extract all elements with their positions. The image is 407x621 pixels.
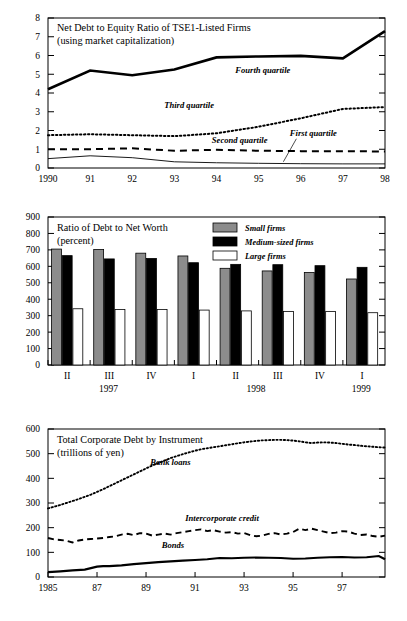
chart2-y-tick-label: 600	[26, 262, 41, 272]
chart1-x-tick-label: 96	[296, 174, 306, 184]
chart2-x-tick-label: I	[360, 371, 363, 381]
chart2-bar	[189, 263, 199, 365]
chart2-svg: 0100200300400500600700800900 IIIIIIVIIII…	[0, 205, 407, 417]
chart3-x-tick-label: 89	[141, 583, 151, 593]
chart2-bar	[284, 311, 294, 365]
chart3-svg: 0100200300400500600 1985878991939597 Tot…	[0, 417, 407, 621]
chart2-legend-label: Large firms	[244, 252, 286, 261]
chart2-x-tick-label: I	[192, 371, 195, 381]
chart2-y-tick-label: 500	[26, 278, 41, 288]
chart1-x-tick-label: 91	[85, 174, 95, 184]
chart2-x-axis-labels: IIIIIIVIIIIIIIVI	[64, 371, 364, 381]
chart2-x-tick-label: II	[64, 371, 70, 381]
chart3-y-tick-label: 100	[26, 548, 41, 558]
chart1-y-tick-label: 3	[35, 107, 40, 117]
chart2-bar	[136, 253, 146, 365]
chart2-bar	[262, 271, 272, 365]
chart1-subtitle: (using market capitalization)	[57, 35, 174, 47]
chart2-legend-label: Medium-sized firms	[244, 238, 314, 247]
chart3-series-line	[48, 556, 385, 572]
chart2-bar	[315, 266, 325, 365]
chart3-y-tick-label: 600	[26, 424, 41, 434]
chart1-y-tick-label: 0	[35, 163, 40, 173]
chart2-bar	[73, 309, 83, 365]
chart1-y-tick-label: 2	[35, 126, 40, 136]
chart3-x-tick-label: 87	[92, 583, 102, 593]
chart2-y-tick-label: 100	[26, 344, 41, 354]
chart3-x-tick-label: 97	[337, 583, 347, 593]
chart1-x-tick-label: 95	[254, 174, 264, 184]
chart3-y-tick-label: 300	[26, 498, 41, 508]
chart2-bar	[368, 313, 378, 365]
chart2-bar	[357, 267, 367, 365]
chart2-y-tick-label: 700	[26, 245, 41, 255]
chart2-bar	[220, 268, 230, 365]
chart-net-debt-to-equity: 012345678 19909192939495969798 Net Debt …	[0, 0, 407, 205]
chart2-year-labels: 199719981999	[99, 384, 371, 394]
chart1-x-tick-label: 97	[338, 174, 348, 184]
chart1-y-tick-label: 8	[35, 13, 40, 23]
chart2-legend: Small firmsMedium-sized firmsLarge firms	[213, 223, 314, 261]
chart1-x-tick-label: 92	[128, 174, 138, 184]
chart1-series-line	[48, 156, 385, 164]
chart2-legend-label: Small firms	[245, 224, 285, 233]
chart2-year-label: 1997	[99, 384, 118, 394]
chart3-y-tick-label: 500	[26, 449, 41, 459]
chart2-bar	[94, 250, 104, 365]
chart1-x-tick-label: 1990	[39, 174, 58, 184]
chart1-series-label: Second quartile	[212, 135, 268, 145]
chart2-bar	[199, 310, 209, 365]
chart3-series-annotations: Bank loansIntercorporate creditBonds	[149, 457, 259, 550]
chart2-x-tick-label: III	[273, 371, 283, 381]
chart3-y-tick-label: 0	[35, 572, 40, 582]
chart2-legend-swatch	[213, 237, 237, 246]
chart3-series-label: Intercorporate credit	[184, 513, 259, 523]
chart2-bar	[157, 309, 167, 365]
chart2-bar	[115, 310, 125, 365]
chart1-series-line	[48, 148, 385, 151]
chart2-y-axis-labels: 0100200300400500600700800900	[26, 212, 41, 370]
chart1-x-tick-label: 98	[380, 174, 390, 184]
chart2-x-tick-label: III	[105, 371, 115, 381]
chart1-y-tick-label: 1	[35, 145, 40, 155]
chart3-series-label: Bonds	[161, 540, 185, 550]
chart3-x-tick-label: 1985	[39, 583, 58, 593]
chart2-year-label: 1999	[352, 384, 371, 394]
chart2-bars-group	[52, 249, 378, 365]
chart2-bar	[178, 256, 188, 365]
chart2-x-tick-label: II	[233, 371, 239, 381]
chart2-bar	[304, 273, 314, 365]
chart3-y-tick-label: 400	[26, 474, 41, 484]
chart1-y-tick-label: 4	[35, 88, 40, 98]
chart2-y-tick-label: 200	[26, 328, 41, 338]
chart3-x-axis-labels: 1985878991939597	[39, 583, 348, 593]
chart1-x-axis-labels: 19909192939495969798	[39, 174, 391, 184]
chart3-title: Total Corporate Debt by Instrument	[57, 434, 203, 445]
chart3-series-group	[48, 440, 385, 572]
chart2-bar	[146, 258, 156, 365]
chart2-bar	[346, 279, 356, 365]
chart2-bar	[241, 311, 251, 365]
chart1-title: Net Debt to Equity Ratio of TSE1-Listed …	[57, 22, 251, 33]
chart1-y-tick-label: 6	[35, 51, 40, 61]
chart1-series-annotations: Fourth quartileThird quartileSecond quar…	[164, 65, 337, 161]
chart1-series-label: Fourth quartile	[234, 65, 290, 75]
chart2-y-tick-label: 400	[26, 295, 41, 305]
chart2-legend-swatch	[213, 223, 237, 232]
chart1-y-axis-labels: 012345678	[35, 13, 40, 173]
chart2-year-label: 1998	[246, 384, 265, 394]
chart1-x-tick-label: 93	[170, 174, 180, 184]
chart2-y-tick-label: 300	[26, 311, 41, 321]
figure-page: 012345678 19909192939495969798 Net Debt …	[0, 0, 407, 621]
chart1-svg: 012345678 19909192939495969798 Net Debt …	[0, 0, 407, 205]
chart3-subtitle: (trillions of yen)	[57, 447, 124, 459]
chart2-bar	[52, 249, 62, 365]
chart2-bar	[62, 256, 72, 365]
chart-total-corporate-debt: 0100200300400500600 1985878991939597 Tot…	[0, 417, 407, 621]
chart-debt-to-net-worth: 0100200300400500600700800900 IIIIIIVIIII…	[0, 205, 407, 417]
chart3-y-tick-label: 200	[26, 523, 41, 533]
chart1-x-tick-label: 94	[212, 174, 222, 184]
chart2-title: Ratio of Debt to Net Worth	[57, 222, 168, 233]
chart2-x-tick-label: IV	[146, 371, 156, 381]
chart2-legend-swatch	[213, 251, 237, 260]
